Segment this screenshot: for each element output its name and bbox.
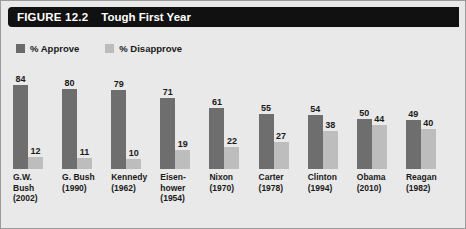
bar-value-label: 71 [163,87,173,97]
figure-number: FIGURE 12.2 [17,11,88,23]
bar-value-label: 38 [325,120,335,130]
bar-group: 5527 [259,61,308,169]
bar-group: 6122 [209,61,258,169]
x-axis-label-line: Nixon [209,172,255,183]
x-axis-label-line: hower [160,183,206,194]
legend-label-disapprove: % Disapprove [119,43,182,54]
bar-disapprove: 27 [274,61,289,169]
bar-disapprove: 11 [77,61,92,169]
bar-value-label: 19 [178,139,188,149]
bar-disapprove: 22 [224,61,239,169]
bar-rect [274,142,289,169]
bar-approve: 61 [209,61,224,169]
x-axis-label-line: (1978) [259,183,305,194]
bar-rect [406,120,421,169]
x-axis-label: Kennedy(1962) [111,172,160,193]
bar-disapprove: 40 [421,61,436,169]
x-axis-label-line: Clinton [308,172,354,183]
x-axis-label-line: Eisen- [160,172,206,183]
legend-item-disapprove: % Disapprove [105,43,182,54]
x-axis-label-line: Kennedy [111,172,157,183]
bar-approve: 79 [111,61,126,169]
figure-title-bar: FIGURE 12.2 Tough First Year [8,7,459,27]
bar-rect [421,129,436,169]
bar-value-label: 50 [359,108,369,118]
bar-value-label: 11 [80,147,90,157]
bar-group: 5438 [308,61,357,169]
x-axis-label-row: G.W.Bush(2002)G. Bush(1990)Kennedy(1962)… [13,172,455,204]
bar-rect [13,85,28,169]
bar-rect [62,89,77,169]
legend-label-approve: % Approve [30,43,79,54]
chart-legend: % Approve % Disapprove [16,41,182,55]
bar-rect [323,131,338,169]
bar-disapprove: 38 [323,61,338,169]
bar-value-label: 55 [261,103,271,113]
x-axis-label-line: Reagan [406,172,452,183]
x-axis-label: Reagan(1982) [406,172,455,193]
bar-chart-plot-area: 841280117910711961225527543850444940 [13,61,455,169]
bar-group: 4940 [406,61,455,169]
bar-value-label: 49 [408,109,418,119]
x-axis-label-line: (1970) [209,183,255,194]
bar-value-label: 44 [374,114,384,124]
bar-value-label: 54 [310,104,320,114]
x-axis-label: Carter(1978) [259,172,308,193]
bar-group: 8011 [62,61,111,169]
bar-value-label: 84 [15,74,25,84]
figure-container: FIGURE 12.2 Tough First Year % Approve %… [0,0,466,229]
x-axis-label-line: G. Bush [62,172,108,183]
x-axis-label-line: G.W. [13,172,59,183]
x-axis-label-line: (1994) [308,183,354,194]
bar-approve: 50 [357,61,372,169]
x-axis-label-line: (1962) [111,183,157,194]
x-axis-label: G. Bush(1990) [62,172,111,193]
x-axis-label-line: (1954) [160,193,206,204]
bar-disapprove: 44 [372,61,387,169]
bar-disapprove: 19 [175,61,190,169]
x-axis-label: Obama(2010) [357,172,406,193]
x-axis-label: Eisen-hower(1954) [160,172,209,204]
bar-group: 5044 [357,61,406,169]
x-axis-label-line: Bush [13,183,59,194]
bar-value-label: 79 [114,79,124,89]
bar-value-label: 22 [227,136,237,146]
bar-rect [77,158,92,169]
bar-approve: 80 [62,61,77,169]
bar-rect [160,98,175,169]
x-axis-label: Nixon(1970) [209,172,258,193]
bar-rect [357,119,372,169]
x-axis-label: Clinton(1994) [308,172,357,193]
bar-rect [28,157,43,169]
x-axis-label: G.W.Bush(2002) [13,172,62,204]
bar-approve: 49 [406,61,421,169]
bar-rect [372,125,387,169]
x-axis-label-line: (2010) [357,183,403,194]
bar-rect [209,108,224,169]
bar-disapprove: 10 [126,61,141,169]
bar-group: 7119 [160,61,209,169]
bar-approve: 84 [13,61,28,169]
bar-rect [308,115,323,169]
x-axis-label-line: (1990) [62,183,108,194]
legend-item-approve: % Approve [16,43,79,54]
x-axis-label-line: (1982) [406,183,452,194]
bar-approve: 54 [308,61,323,169]
bar-value-label: 12 [30,146,40,156]
bar-value-label: 10 [129,148,139,158]
bar-disapprove: 12 [28,61,43,169]
bar-value-label: 80 [65,78,75,88]
bar-rect [259,114,274,169]
bar-rect [224,147,239,169]
x-axis-label-line: Obama [357,172,403,183]
bar-value-label: 27 [276,131,286,141]
legend-swatch-approve-icon [16,44,25,53]
bar-value-label: 61 [212,97,222,107]
x-axis-label-line: Carter [259,172,305,183]
legend-swatch-disapprove-icon [105,44,114,53]
bar-rect [111,90,126,169]
bar-group: 8412 [13,61,62,169]
x-axis-label-line: (2002) [13,193,59,204]
bar-rect [175,150,190,169]
bar-group: 7910 [111,61,160,169]
